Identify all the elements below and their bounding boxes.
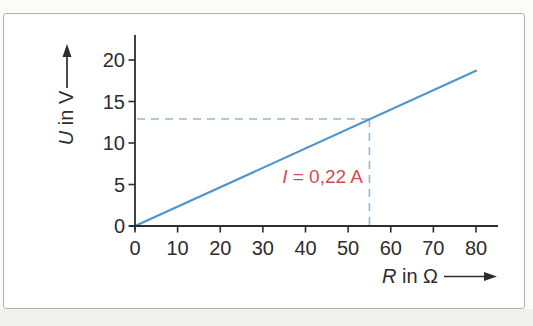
x-tick-label: 10 <box>167 237 189 259</box>
scanned-page-background: 0102030405060708005101520R in ΩU in VI =… <box>0 0 533 326</box>
x-tick-label: 70 <box>422 237 444 259</box>
x-tick-label: 50 <box>337 237 359 259</box>
series-line <box>135 71 476 226</box>
x-tick-label: 20 <box>209 237 231 259</box>
y-tick-label: 10 <box>103 132 125 154</box>
y-tick-label: 20 <box>103 49 125 71</box>
y-tick-label: 0 <box>114 215 125 237</box>
y-axis-label: U in V <box>55 90 77 145</box>
x-axis-label: R in Ω <box>382 265 438 287</box>
x-tick-label: 0 <box>129 237 140 259</box>
y-axis-arrow-head-icon <box>63 44 72 57</box>
x-tick-label: 60 <box>380 237 402 259</box>
chart-svg: 0102030405060708005101520R in ΩU in VI =… <box>0 0 533 326</box>
x-tick-label: 80 <box>465 237 487 259</box>
x-tick-label: 40 <box>294 237 316 259</box>
y-tick-label: 5 <box>114 174 125 196</box>
current-annotation: I = 0,22 A <box>282 166 363 187</box>
y-tick-label: 15 <box>103 91 125 113</box>
x-tick-label: 30 <box>252 237 274 259</box>
x-axis-arrow-head-icon <box>484 272 497 281</box>
